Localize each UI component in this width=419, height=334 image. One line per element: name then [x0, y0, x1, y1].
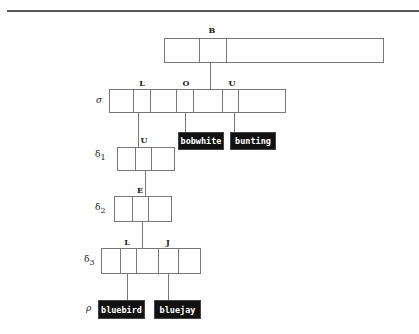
row-label-sigma: σ — [96, 96, 102, 105]
delta3-cell — [102, 249, 121, 273]
edge-j — [168, 274, 169, 300]
delta3-cell — [179, 249, 200, 273]
delta3-cell-l — [121, 249, 137, 273]
root-cell-b — [200, 39, 227, 62]
sigma-cell-o — [177, 90, 194, 112]
edge-o — [185, 113, 186, 132]
root-node — [164, 38, 384, 63]
row-label-delta3: δ3 — [84, 255, 95, 267]
edge-label-l: L — [139, 79, 145, 87]
delta2-node — [114, 196, 172, 222]
delta1-node — [117, 147, 175, 171]
delta2-cell — [149, 197, 171, 221]
row-label-delta2: δ2 — [95, 203, 106, 215]
delta1-cell — [152, 148, 174, 170]
subscript: 3 — [89, 258, 94, 267]
edge-u2 — [145, 171, 146, 196]
sigma-cell — [151, 90, 177, 112]
sigma-cell — [110, 90, 134, 112]
row-label-delta1: δ1 — [95, 150, 106, 162]
top-rule — [7, 10, 419, 12]
edge-label-u2: U — [141, 136, 148, 144]
sigma-cell-l — [134, 90, 151, 112]
leaf-bluebird: bluebird — [98, 300, 145, 319]
edge-label-b: B — [209, 26, 216, 34]
edge-label-j: J — [166, 238, 170, 246]
delta1-cell-u — [136, 148, 152, 170]
subscript: 1 — [100, 153, 105, 162]
edge-label-l2: L — [124, 238, 130, 246]
edge-u — [234, 113, 235, 132]
edge-e — [142, 222, 143, 248]
delta2-cell-e — [133, 197, 149, 221]
edge-b — [210, 63, 211, 89]
leaf-bluejay: bluejay — [154, 300, 201, 319]
delta3-cell — [137, 249, 159, 273]
sigma-cell — [239, 90, 285, 112]
sigma-cell-u — [223, 90, 239, 112]
leaf-bobwhite: bobwhite — [178, 132, 224, 150]
leaf-bunting: bunting — [230, 132, 276, 150]
root-cell — [227, 39, 383, 62]
edge-label-o: O — [183, 79, 190, 87]
delta2-cell — [115, 197, 133, 221]
delta3-cell-j — [159, 249, 179, 273]
sigma-cell — [194, 90, 223, 112]
edge-label-u: U — [229, 79, 236, 87]
delta3-node — [101, 248, 201, 274]
row-label-rho: ρ — [86, 304, 91, 313]
sigma-node — [109, 89, 286, 113]
edge-l — [138, 113, 139, 147]
root-cell — [165, 39, 200, 62]
subscript: 2 — [100, 206, 105, 215]
edge-l2 — [127, 274, 128, 300]
edge-label-e: E — [137, 186, 143, 194]
delta1-cell — [118, 148, 136, 170]
